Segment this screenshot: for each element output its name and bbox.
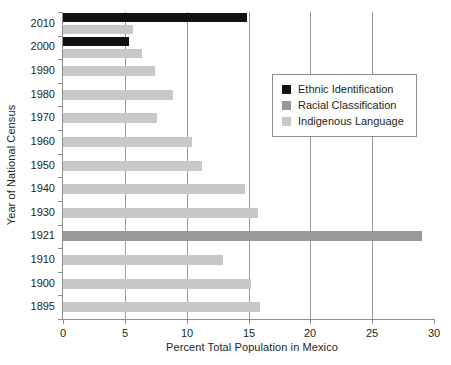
y-axis-tick-label: 1960 <box>3 136 55 147</box>
y-axis-tick <box>58 59 63 60</box>
bar <box>63 208 258 218</box>
bar <box>63 49 142 58</box>
y-axis-tick-label: 2010 <box>3 18 55 29</box>
x-axis-tick <box>434 319 435 324</box>
bar <box>63 66 155 76</box>
y-axis-tick-label: 2000 <box>3 41 55 52</box>
x-axis-tick-label: 10 <box>167 327 207 339</box>
bar <box>63 184 245 194</box>
x-axis-tick <box>249 319 250 324</box>
legend-item[interactable]: Indigenous Language <box>273 113 416 129</box>
y-axis-tick-label: 1940 <box>3 183 55 194</box>
y-axis-tick <box>58 272 63 273</box>
bar <box>63 302 260 312</box>
y-axis-tick-label: 1970 <box>3 112 55 123</box>
x-axis-title: Percent Total Population in Mexico <box>63 341 441 353</box>
legend-item[interactable]: Racial Classification <box>273 97 416 113</box>
bar <box>63 13 247 22</box>
y-axis-tick <box>58 319 63 320</box>
y-axis-tick <box>58 154 63 155</box>
y-axis-tick-label: 1921 <box>3 230 55 241</box>
gridline <box>372 12 373 319</box>
x-axis-tick-label: 0 <box>43 327 83 339</box>
legend-label: Racial Classification <box>298 99 396 111</box>
x-axis-tick <box>310 319 311 324</box>
legend-swatch-icon <box>282 101 291 110</box>
bar <box>63 231 422 241</box>
y-axis-tick-label: 1990 <box>3 65 55 76</box>
y-axis-tick <box>58 225 63 226</box>
y-axis-tick <box>58 177 63 178</box>
bar <box>63 161 202 171</box>
x-axis-tick-label: 20 <box>290 327 330 339</box>
y-axis-tick <box>58 130 63 131</box>
bar <box>63 37 129 46</box>
x-axis-tick <box>372 319 373 324</box>
bar <box>63 137 192 147</box>
bar <box>63 90 173 100</box>
x-axis-tick-label: 15 <box>229 327 269 339</box>
x-axis-tick <box>63 319 64 324</box>
y-axis-tick-label: 1980 <box>3 89 55 100</box>
chart-legend: Ethnic IdentificationRacial Classificati… <box>272 74 417 137</box>
gridline <box>249 12 250 319</box>
legend-label: Indigenous Language <box>298 115 404 127</box>
y-axis-tick-label: 1930 <box>3 207 55 218</box>
legend-swatch-icon <box>282 85 291 94</box>
y-axis-tick <box>58 248 63 249</box>
legend-label: Ethnic Identification <box>298 83 393 95</box>
y-axis-tick <box>58 83 63 84</box>
gridline <box>310 12 311 319</box>
y-axis-tick-label: 1900 <box>3 278 55 289</box>
y-axis-tick <box>58 295 63 296</box>
y-axis-tick-label: 1950 <box>3 160 55 171</box>
legend-item[interactable]: Ethnic Identification <box>273 81 416 97</box>
x-axis-tick-label: 25 <box>352 327 392 339</box>
x-axis-tick-label: 5 <box>105 327 145 339</box>
y-axis-tick-label: 1910 <box>3 254 55 265</box>
plot-area: 051015202530 201020001990198019701960195… <box>63 12 434 319</box>
y-axis-tick-label: 1895 <box>3 301 55 312</box>
bar <box>63 279 251 289</box>
y-axis-tick <box>58 201 63 202</box>
x-axis-tick <box>125 319 126 324</box>
y-axis-tick <box>58 106 63 107</box>
bar <box>63 255 223 265</box>
legend-swatch-icon <box>282 117 291 126</box>
bar-chart: Year of National Census 051015202530 201… <box>0 0 451 365</box>
x-axis-tick <box>187 319 188 324</box>
bar <box>63 113 157 123</box>
bar <box>63 25 133 34</box>
x-axis-tick-label: 30 <box>414 327 451 339</box>
